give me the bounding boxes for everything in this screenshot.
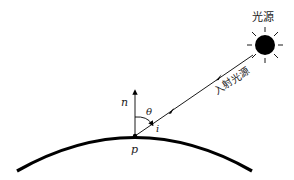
incident-ray bbox=[135, 55, 253, 136]
normal-label: n bbox=[121, 96, 128, 109]
incident-i-label: i bbox=[156, 123, 159, 134]
ray-arrow-lower bbox=[169, 108, 175, 114]
incident-light-label: 入射光源 bbox=[211, 64, 251, 96]
point-p-marker bbox=[133, 134, 137, 138]
point-p-label: p bbox=[131, 143, 138, 156]
angle-arc bbox=[135, 117, 152, 124]
sun-icon bbox=[247, 27, 283, 63]
reflection-diagram: 光源 入射光源 n θ i p bbox=[0, 0, 294, 180]
light-source-label: 光源 bbox=[252, 10, 274, 24]
angle-theta-label: θ bbox=[146, 106, 152, 117]
